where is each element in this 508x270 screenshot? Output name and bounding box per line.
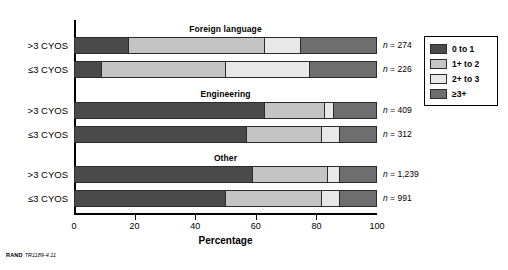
legend-swatch (430, 59, 447, 69)
bar-segment (75, 103, 265, 118)
stacked-bar (74, 61, 377, 78)
sample-size-label: n = 991 (383, 190, 412, 207)
legend-label: 0 to 1 (452, 44, 474, 54)
legend: 0 to 11+ to 22+ to 3≥3+ (424, 36, 498, 106)
stacked-bar (74, 37, 377, 54)
legend-swatch (430, 74, 447, 84)
bar-segment (226, 191, 322, 206)
bar-segment (310, 62, 376, 77)
x-axis-tick (135, 215, 136, 220)
bar-segment (340, 191, 376, 206)
sample-size-label: n = 274 (383, 37, 412, 54)
bar-segment (328, 167, 340, 182)
bar-segment (226, 62, 310, 77)
stacked-bar (74, 102, 377, 119)
bar-segment (102, 62, 225, 77)
legend-label: 2+ to 3 (452, 74, 479, 84)
sample-size-label: n = 409 (383, 102, 412, 119)
bar-segment (253, 167, 328, 182)
bar-segment (129, 38, 264, 53)
source-doc-id: TR1189-4.11 (25, 252, 56, 258)
x-axis-tick-label: 40 (180, 221, 210, 231)
legend-item: 2+ to 3 (430, 72, 493, 85)
category-label: >3 CYOS (0, 166, 68, 183)
bar-segment (265, 103, 325, 118)
sample-size-label: n = 312 (383, 126, 412, 143)
bar-segment (322, 191, 340, 206)
group-title: Other (74, 153, 377, 164)
x-axis-tick (316, 215, 317, 220)
x-axis-tick-label: 0 (59, 221, 89, 231)
category-label: >3 CYOS (0, 37, 68, 54)
bar-segment (75, 62, 102, 77)
bar-segment (75, 191, 226, 206)
category-label: ≤3 CYOS (0, 126, 68, 143)
bar-segment (340, 167, 376, 182)
legend-item: 0 to 1 (430, 42, 493, 55)
x-axis-title: Percentage (74, 235, 377, 246)
legend-swatch (430, 44, 447, 54)
bar-segment (75, 167, 253, 182)
legend-item: ≥3+ (430, 87, 493, 100)
sample-size-label: n = 1,239 (383, 166, 419, 183)
bar-segment (265, 38, 301, 53)
source-note: RANDTR1189-4.11 (6, 252, 56, 258)
bar-segment (322, 127, 340, 142)
bar-segment (301, 38, 376, 53)
legend-label: ≥3+ (452, 89, 466, 99)
sample-size-label: n = 226 (383, 61, 412, 78)
bar-segment (75, 38, 129, 53)
stacked-bar (74, 126, 377, 143)
group-title: Foreign language (74, 24, 377, 35)
bar-segment (75, 127, 247, 142)
bar-segment (325, 103, 334, 118)
x-axis-tick (256, 215, 257, 220)
source-org: RAND (6, 252, 23, 258)
bar-segment (340, 127, 376, 142)
legend-item: 1+ to 2 (430, 57, 493, 70)
x-axis-tick-label: 100 (362, 221, 392, 231)
x-axis-tick-label: 80 (301, 221, 331, 231)
stacked-bar (74, 190, 377, 207)
group-title: Engineering (74, 89, 377, 100)
stacked-bar (74, 166, 377, 183)
x-axis-tick (195, 215, 196, 220)
legend-label: 1+ to 2 (452, 59, 479, 69)
category-label: >3 CYOS (0, 102, 68, 119)
category-label: ≤3 CYOS (0, 61, 68, 78)
bar-segment (247, 127, 322, 142)
x-axis-tick-label: 60 (241, 221, 271, 231)
x-axis-tick-label: 20 (120, 221, 150, 231)
category-label: ≤3 CYOS (0, 190, 68, 207)
legend-swatch (430, 89, 447, 99)
stacked-bar-chart: Foreign language>3 CYOSn = 274≤3 CYOSn =… (0, 0, 508, 270)
bar-segment (334, 103, 376, 118)
